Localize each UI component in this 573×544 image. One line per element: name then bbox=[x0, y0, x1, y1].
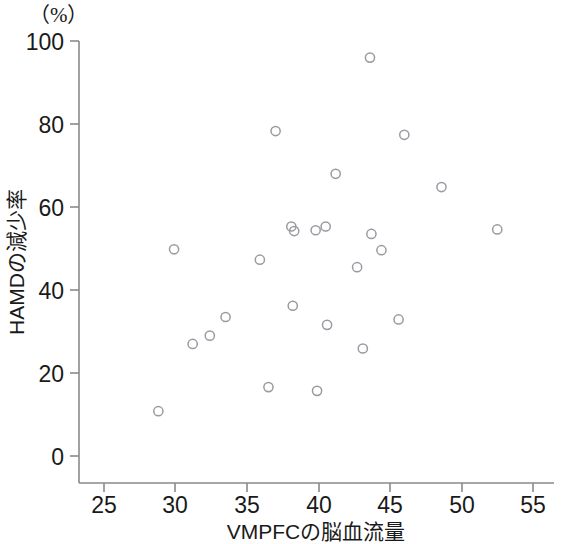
y-tick-label-0: 0 bbox=[51, 444, 64, 470]
y-axis-ticks bbox=[70, 41, 79, 456]
x-tick-label-40: 40 bbox=[306, 492, 332, 518]
scatter-point bbox=[154, 407, 163, 416]
x-axis-title: VMPFCの脳血流量 bbox=[227, 520, 406, 543]
y-tick-label-40: 40 bbox=[38, 278, 64, 304]
scatter-point bbox=[353, 263, 362, 272]
scatter-point bbox=[321, 222, 330, 231]
scatter-point bbox=[288, 301, 297, 310]
y-axis-tick-labels: 100 80 60 40 20 0 bbox=[26, 29, 64, 470]
x-axis-tick-labels: 25 30 35 40 45 50 55 bbox=[91, 492, 546, 518]
scatter-point bbox=[271, 126, 280, 135]
scatter-point bbox=[493, 225, 502, 234]
scatter-point bbox=[437, 182, 446, 191]
scatter-point bbox=[312, 386, 321, 395]
y-tick-label-20: 20 bbox=[38, 361, 64, 387]
scatter-chart-figure: （%） 100 80 60 40 20 0 bbox=[0, 0, 573, 544]
scatter-point bbox=[322, 320, 331, 329]
scatter-point bbox=[264, 383, 273, 392]
x-tick-label-55: 55 bbox=[520, 492, 546, 518]
scatter-point bbox=[400, 130, 409, 139]
scatter-point bbox=[367, 229, 376, 238]
scatter-point bbox=[358, 344, 367, 353]
scatter-point bbox=[377, 246, 386, 255]
y-tick-label-80: 80 bbox=[38, 112, 64, 138]
y-tick-label-60: 60 bbox=[38, 195, 64, 221]
scatter-point bbox=[205, 331, 214, 340]
scatter-point bbox=[221, 312, 230, 321]
x-tick-label-50: 50 bbox=[449, 492, 475, 518]
scatter-point bbox=[169, 245, 178, 254]
y-axis-unit-label: （%） bbox=[29, 3, 89, 27]
y-axis-title: HAMDの減少率 bbox=[5, 189, 28, 335]
scatter-point bbox=[394, 315, 403, 324]
scatter-point bbox=[311, 226, 320, 235]
x-tick-label-45: 45 bbox=[377, 492, 403, 518]
y-tick-label-100: 100 bbox=[26, 29, 64, 55]
scatter-point bbox=[255, 255, 264, 264]
x-axis-ticks bbox=[104, 483, 533, 492]
scatter-point bbox=[188, 339, 197, 348]
x-tick-label-30: 30 bbox=[162, 492, 188, 518]
scatter-point bbox=[331, 169, 340, 178]
scatter-point bbox=[365, 53, 374, 62]
x-tick-label-25: 25 bbox=[91, 492, 117, 518]
x-tick-label-35: 35 bbox=[234, 492, 260, 518]
chart-canvas: （%） 100 80 60 40 20 0 bbox=[0, 0, 573, 544]
scatter-points-layer bbox=[154, 53, 502, 416]
